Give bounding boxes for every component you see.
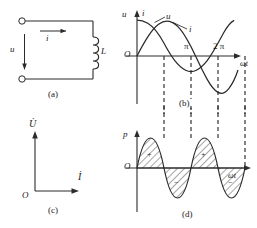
- panel-c-current-phasor-label: İ: [78, 172, 81, 182]
- panel-d-caption: (d): [182, 210, 193, 219]
- panel-b-caption: (b): [177, 99, 192, 108]
- panel-d-sign-negative-1: −: [174, 179, 179, 187]
- voltage-arrow-head-icon: [22, 64, 27, 71]
- panel-d-sign-positive-1: +: [147, 151, 152, 159]
- panel-a-circuit: i u L (a): [0, 0, 120, 110]
- panel-c-current-phasor-arrow-icon: [72, 188, 80, 194]
- panel-b-curve-label-i: i: [189, 25, 192, 34]
- panel-c-voltage-phasor-arrow-icon: [32, 131, 38, 139]
- panel-b-curve-i: [137, 21, 238, 93]
- figure-root: i u L (a) u i u: [0, 0, 257, 228]
- panel-a-source-label: u: [10, 45, 15, 54]
- panel-c-svg: [0, 112, 120, 228]
- panel-c-origin-label: O: [22, 191, 29, 200]
- panel-d-x-axis-arrow-icon: [244, 165, 251, 170]
- panel-d-y-axis-label: p: [123, 130, 128, 139]
- panel-b-curve-label-u: u: [166, 12, 171, 21]
- panel-b-y-label-i: i: [142, 9, 145, 18]
- panel-b-y-label-u: u: [122, 10, 127, 19]
- panel-c-phasor: U̇ İ O (c): [0, 112, 120, 228]
- panel-c-voltage-phasor-label: U̇: [29, 119, 36, 129]
- panel-d-x-axis-label: ωt: [228, 172, 236, 180]
- panel-b-x-axis-label: ωt: [240, 60, 248, 68]
- inductor-coil-icon: [93, 37, 99, 69]
- panel-d-origin-label: O: [124, 162, 131, 171]
- panel-b-xtick-pi: π: [184, 42, 189, 51]
- panel-b-svg: [120, 0, 257, 114]
- terminal-bottom-icon: [19, 76, 25, 82]
- panel-a-caption: (a): [48, 90, 58, 99]
- panel-d-sign-positive-2: +: [201, 151, 206, 159]
- panel-d-y-axis-arrow-icon: [134, 130, 139, 137]
- panel-b-y-axis-arrow-icon: [134, 10, 139, 17]
- panel-a-inductor-label: L: [101, 47, 106, 56]
- panel-a-current-label: i: [46, 34, 49, 43]
- panel-b-xtick-2pi: 2 π: [213, 42, 224, 51]
- panel-c-caption: (c): [48, 206, 58, 215]
- panel-d-sign-negative-2: −: [228, 179, 233, 187]
- current-arrow-head-icon: [61, 29, 67, 34]
- panel-b-x-axis-arrow-icon: [234, 53, 241, 58]
- panel-b-origin-label: O: [124, 50, 131, 59]
- panel-d-power: p O + − + − ωt (d): [120, 112, 257, 228]
- panel-b-waveforms: u i u i O π 2 π ωt (b): [120, 0, 257, 114]
- terminal-top-icon: [19, 18, 25, 24]
